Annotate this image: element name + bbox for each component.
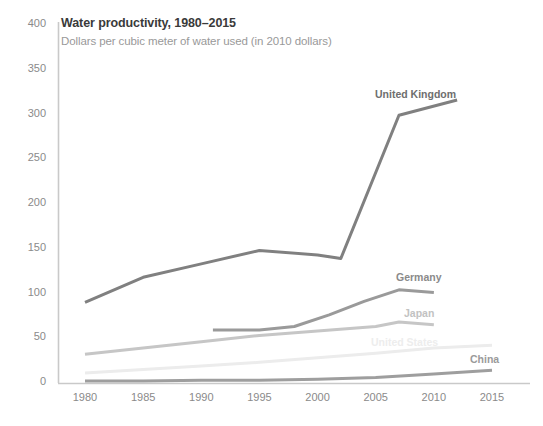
series-label-japan: Japan bbox=[404, 307, 434, 319]
series-line-china bbox=[85, 370, 492, 381]
series-label-united-states: United States bbox=[371, 336, 438, 348]
plot-area bbox=[0, 0, 543, 426]
series-line-germany bbox=[213, 290, 434, 330]
series-label-china: China bbox=[470, 353, 499, 365]
series-label-united-kingdom: United Kingdom bbox=[375, 88, 456, 100]
water-productivity-chart: Water productivity, 1980–2015 Dollars pe… bbox=[0, 0, 543, 426]
series-line-united-states bbox=[85, 345, 492, 373]
series-label-germany: Germany bbox=[396, 271, 442, 283]
